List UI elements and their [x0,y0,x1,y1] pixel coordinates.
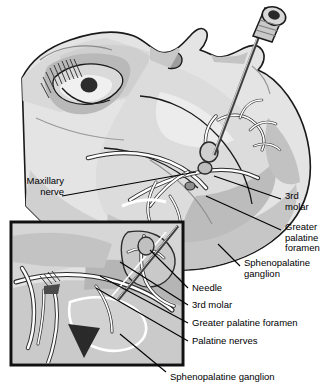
pupil-icon [81,78,98,93]
label-sphenopalatine-ganglion-inset: Sphenopalatine ganglion [170,372,275,383]
magnified-inset [11,222,188,372]
label-maxillary-nerve: Maxillary nerve [0,176,64,197]
label-sphenopalatine-ganglion: Sphenopalatine ganglion [244,258,310,279]
greater-palatine-foramen-marker [185,182,195,190]
label-3rd-molar-inset: 3rd molar [192,300,232,311]
label-needle-inset: Needle [192,283,222,294]
label-greater-palatine-foramen-inset: Greater palatine foramen [192,318,298,329]
label-greater-palatine-foramen: Greater palatine foramen [285,222,320,254]
illustration-canvas: Maxillary nerve 3rd molar Greater palati… [0,0,324,388]
label-3rd-molar: 3rd molar [285,191,309,212]
ganglion-node-secondary [198,162,212,174]
label-palatine-nerves-inset: Palatine nerves [192,336,257,347]
syringe-hub [253,4,288,42]
